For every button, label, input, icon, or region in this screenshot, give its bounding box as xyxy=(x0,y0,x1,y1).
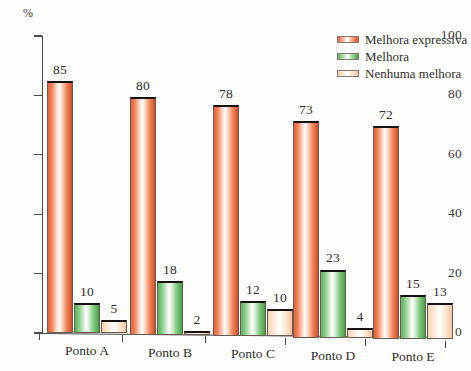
bar-value-label: 72 xyxy=(366,107,406,123)
bar-value-label: 23 xyxy=(313,250,353,266)
bar xyxy=(240,301,266,337)
x-tick-mark xyxy=(122,335,123,342)
x-tick-mark xyxy=(365,339,366,346)
legend-item[interactable]: Melhora xyxy=(337,49,467,64)
legend-swatch xyxy=(337,53,359,60)
bar xyxy=(101,320,127,333)
legend-label: Melhora xyxy=(365,49,409,65)
legend-item[interactable]: Melhora expressiva xyxy=(337,32,467,47)
bar xyxy=(293,121,319,338)
y-tick-label: 40 xyxy=(428,205,462,221)
y-tick-mark xyxy=(34,273,42,274)
bar xyxy=(184,331,210,335)
y-tick-label: 60 xyxy=(428,146,462,162)
legend-swatch xyxy=(337,70,359,77)
y-tick-mark xyxy=(34,95,42,96)
y-axis-unit-label: % xyxy=(23,6,33,21)
bar xyxy=(427,303,453,340)
y-tick-mark xyxy=(34,332,42,333)
y-tick-mark xyxy=(34,35,42,36)
group-label: Ponto E xyxy=(355,349,471,365)
bar-value-label: 85 xyxy=(40,62,80,78)
legend-label: Melhora expressiva xyxy=(365,32,467,48)
bar-value-label: 10 xyxy=(67,284,107,300)
x-tick-mark xyxy=(205,336,206,343)
chart-legend: Melhora expressivaMelhoraNenhuma melhora xyxy=(337,32,467,83)
bar-value-label: 5 xyxy=(94,301,134,317)
x-tick-mark xyxy=(285,338,286,345)
bar xyxy=(347,328,373,338)
bar-value-label: 80 xyxy=(123,78,163,94)
legend-swatch xyxy=(337,36,359,43)
x-tick-mark xyxy=(445,341,446,348)
bar xyxy=(213,105,239,337)
bar-value-label: 73 xyxy=(286,102,326,118)
bar-value-label: 78 xyxy=(206,86,246,102)
bar xyxy=(400,295,426,340)
bar-value-label: 13 xyxy=(420,284,460,300)
bar xyxy=(320,270,346,338)
bar xyxy=(130,97,156,335)
legend-item[interactable]: Nenhuma melhora xyxy=(337,66,467,81)
bar xyxy=(373,126,399,340)
y-axis-line xyxy=(42,36,43,334)
bar-value-label: 2 xyxy=(177,312,217,328)
y-tick-label: 80 xyxy=(428,86,462,102)
x-tick-mark xyxy=(39,333,40,340)
y-tick-mark xyxy=(34,154,42,155)
bar xyxy=(267,309,293,337)
bar-value-label: 18 xyxy=(150,262,190,278)
y-tick-label: 20 xyxy=(428,265,462,281)
y-tick-mark xyxy=(34,214,42,215)
legend-label: Nenhuma melhora xyxy=(365,66,461,82)
